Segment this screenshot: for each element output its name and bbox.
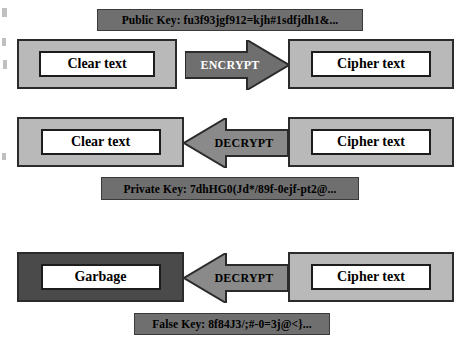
cipher-text-inner-false: Cipher text — [311, 264, 431, 290]
clear-text-inner-encrypt: Clear text — [39, 51, 155, 77]
encrypt-arrow: ENCRYPT — [185, 40, 289, 90]
public-key-label: Public Key: fu3f93jgf912=kjh#1sdfjdh1&..… — [122, 14, 339, 26]
clear-text-label-decrypt: Clear text — [71, 134, 130, 150]
cipher-text-inner-encrypt: Cipher text — [311, 51, 431, 77]
encrypt-arrow-label: ENCRYPT — [201, 58, 260, 73]
cipher-text-box-decrypt: Cipher text — [288, 117, 454, 167]
garbage-inner: Garbage — [41, 264, 161, 290]
scan-artifact — [2, 38, 6, 46]
private-key-banner: Private Key: 7dhHG0(Jd*/89f-0ejf-pt2@... — [101, 177, 359, 200]
diagram-canvas: Public Key: fu3f93jgf912=kjh#1sdfjdh1&..… — [0, 0, 470, 356]
false-decrypt-arrow: DECRYPT — [184, 253, 288, 303]
cipher-text-label-decrypt: Cipher text — [337, 134, 405, 150]
cipher-text-label-false: Cipher text — [337, 269, 405, 285]
decrypt-arrow: DECRYPT — [184, 118, 288, 168]
clear-text-box-decrypt: Clear text — [17, 117, 184, 167]
cipher-text-box-encrypt: Cipher text — [288, 39, 454, 89]
public-key-banner: Public Key: fu3f93jgf912=kjh#1sdfjdh1&..… — [97, 9, 363, 31]
clear-text-inner-decrypt: Clear text — [41, 129, 161, 155]
scan-artifact — [2, 153, 6, 160]
false-key-banner: False Key: 8f84J3/;#-0=3j@<}... — [134, 313, 330, 335]
decrypt-arrow-label: DECRYPT — [215, 136, 274, 151]
garbage-label: Garbage — [74, 269, 126, 285]
private-key-label: Private Key: 7dhHG0(Jd*/89f-0ejf-pt2@... — [123, 183, 336, 195]
false-decrypt-arrow-label: DECRYPT — [215, 271, 274, 286]
cipher-text-inner-decrypt: Cipher text — [311, 129, 431, 155]
clear-text-label-encrypt: Clear text — [67, 56, 126, 72]
scan-artifact — [2, 8, 7, 17]
cipher-text-label-encrypt: Cipher text — [337, 56, 405, 72]
scan-artifact — [3, 60, 7, 69]
garbage-box: Garbage — [17, 252, 184, 302]
clear-text-box-encrypt: Clear text — [17, 39, 177, 89]
false-key-label: False Key: 8f84J3/;#-0=3j@<}... — [152, 318, 312, 330]
cipher-text-box-false: Cipher text — [288, 252, 454, 302]
